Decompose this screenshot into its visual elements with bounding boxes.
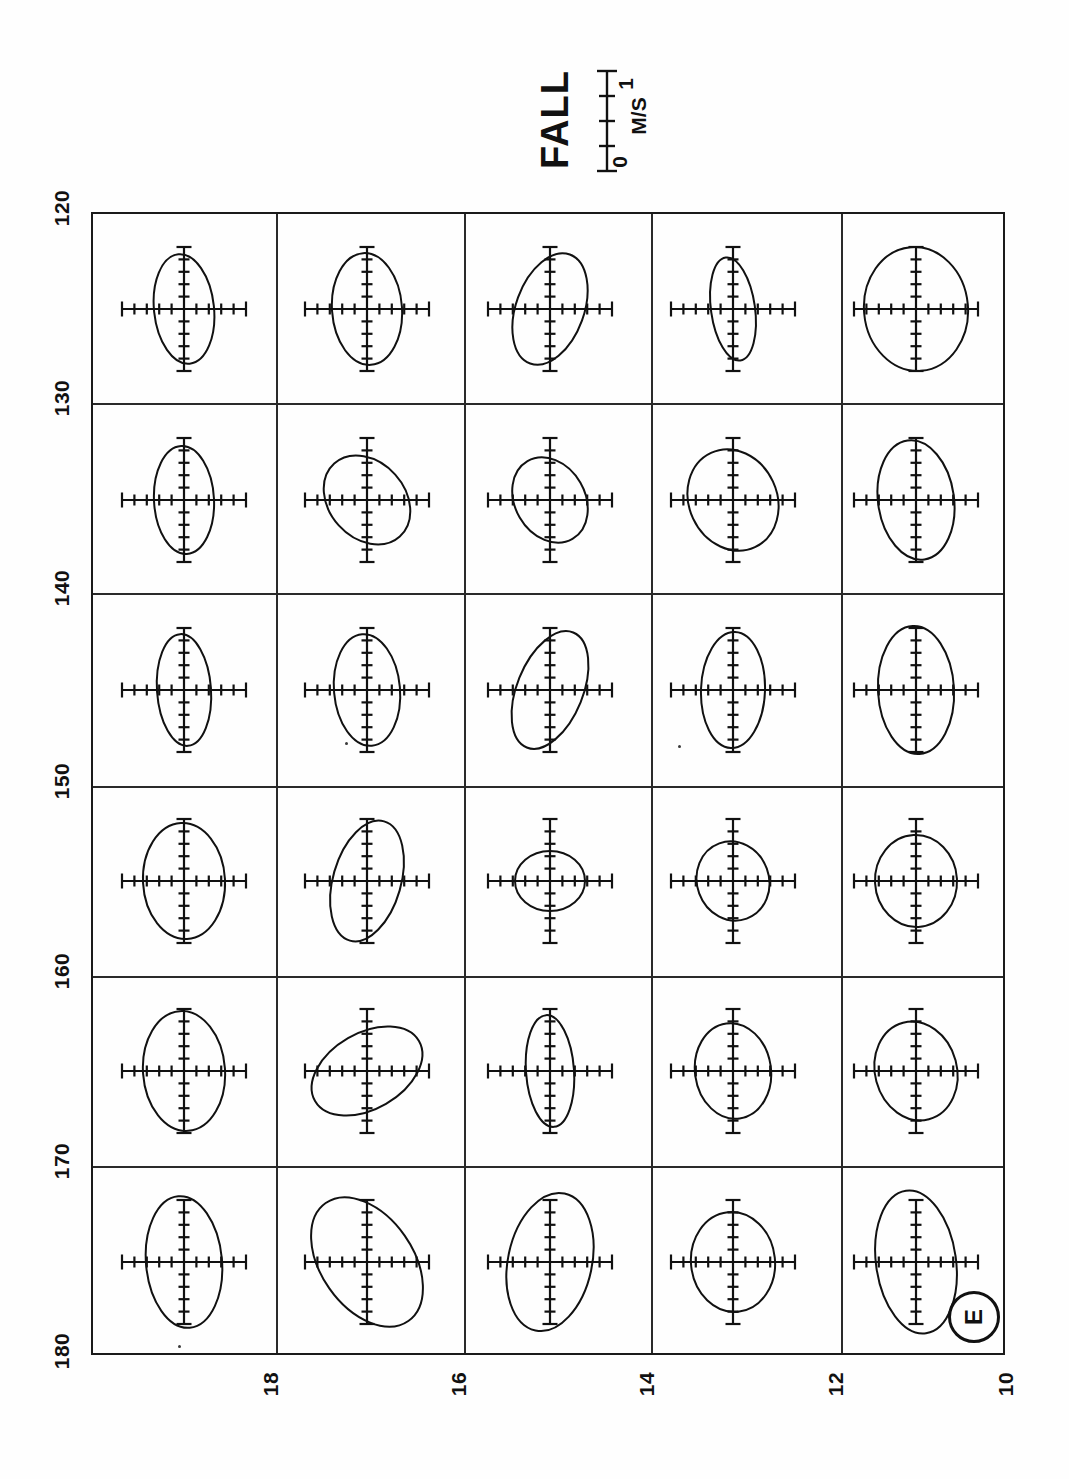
ellipse-cell-svg [445, 776, 655, 986]
ellipse-cell-svg [262, 966, 472, 1176]
ellipse-cell-svg [262, 585, 472, 795]
ellipse-cell-svg [79, 395, 289, 605]
longitude-tick-150: 150 [50, 763, 74, 800]
scale-max-label: 1 [614, 78, 638, 90]
latitude-tick-14: 14 [635, 1372, 659, 1396]
ellipse-cell-svg [628, 776, 838, 986]
ellipse-cell-r0-c3 [628, 204, 838, 414]
ellipse-cell-r5-c1 [262, 1157, 472, 1367]
scale-min-label: 0 [608, 156, 632, 168]
ellipse-cell-r1-c3 [628, 395, 838, 605]
scale-units-label: M/S [627, 97, 651, 134]
ellipse-cell-r3-c0 [79, 776, 289, 986]
ellipse-cell-r3-c3 [628, 776, 838, 986]
ellipse-cell-r5-c4 [811, 1157, 1021, 1367]
ellipse-cell-r2-c2 [445, 585, 655, 795]
ellipse-cell-svg [811, 395, 1021, 605]
ellipse-cell-svg [262, 395, 472, 605]
ellipse-cell-svg [811, 585, 1021, 795]
ellipse-cell-r0-c0 [79, 204, 289, 414]
latitude-tick-10: 10 [994, 1372, 1018, 1396]
ellipse-cell-r0-c4 [811, 204, 1021, 414]
plot-area [91, 212, 1005, 1355]
ellipse-cell-r2-c1 [262, 585, 472, 795]
ellipse-cell-svg [445, 585, 655, 795]
ellipse-cell-svg [445, 966, 655, 1176]
ellipse-cell-svg [262, 776, 472, 986]
ellipse-cell-r5-c0 [79, 1157, 289, 1367]
ellipse-cell-svg [628, 585, 838, 795]
ellipse-cell-r2-c4 [811, 585, 1021, 795]
ellipse-cell-r5-c2 [445, 1157, 655, 1367]
ellipse-cell-svg [445, 1157, 655, 1367]
ellipse-cell-r4-c0 [79, 966, 289, 1176]
longitude-tick-140: 140 [50, 570, 74, 607]
figure-page: FALL 0 M/S 1 120 130 140 150 160 170 180… [0, 0, 1069, 1479]
ellipse-cell-r1-c4 [811, 395, 1021, 605]
longitude-tick-120: 120 [50, 190, 74, 227]
ellipse-cell-svg [79, 966, 289, 1176]
ellipse-cell-r5-c3 [628, 1157, 838, 1367]
ellipse-cell-r2-c0 [79, 585, 289, 795]
ellipse-cell-svg [628, 395, 838, 605]
ellipse-cell-svg [628, 204, 838, 414]
ellipse-cell-r1-c0 [79, 395, 289, 605]
ellipse-cell-r0-c2 [445, 204, 655, 414]
longitude-tick-180: 180 [50, 1333, 74, 1370]
ellipse-cell-r4-c1 [262, 966, 472, 1176]
longitude-tick-170: 170 [50, 1143, 74, 1180]
latitude-tick-16: 16 [447, 1372, 471, 1396]
ellipse-cell-svg [628, 1157, 838, 1367]
longitude-tick-130: 130 [50, 380, 74, 417]
longitude-tick-160: 160 [50, 953, 74, 990]
ellipse-cell-svg [445, 395, 655, 605]
ellipse-cell-r4-c3 [628, 966, 838, 1176]
page-title: FALL [534, 70, 577, 169]
ellipse-cell-svg [262, 204, 472, 414]
ellipse-cell-svg [445, 204, 655, 414]
ellipse-cell-svg [811, 776, 1021, 986]
ellipse-cell-r0-c1 [262, 204, 472, 414]
ellipse-cell-r4-c4 [811, 966, 1021, 1176]
ellipse-cell-svg [811, 204, 1021, 414]
ellipse-cell-r4-c2 [445, 966, 655, 1176]
ellipse-cell-svg [811, 1157, 1021, 1367]
latitude-tick-12: 12 [824, 1372, 848, 1396]
ellipse-cell-svg [79, 204, 289, 414]
ellipse-cell-r3-c2 [445, 776, 655, 986]
ellipse-cell-r3-c4 [811, 776, 1021, 986]
ellipse-cell-svg [262, 1157, 472, 1367]
ellipse-cell-svg [79, 1157, 289, 1367]
ellipse-cell-svg [79, 585, 289, 795]
ellipse-cell-svg [79, 776, 289, 986]
ellipse-cell-r1-c1 [262, 395, 472, 605]
ellipse-cell-r2-c3 [628, 585, 838, 795]
ellipse-cell-svg [628, 966, 838, 1176]
ellipse-cell-r1-c2 [445, 395, 655, 605]
latitude-tick-18: 18 [259, 1372, 283, 1396]
ellipse-cell-svg [811, 966, 1021, 1176]
ellipse-cell-r3-c1 [262, 776, 472, 986]
